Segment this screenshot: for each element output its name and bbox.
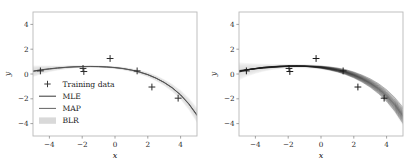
- plus-marker: [286, 68, 293, 75]
- panel-left: −4−2024−4−2024xyTraining dataMLEMAPBLR: [0, 0, 206, 166]
- x-tick-label: 2: [352, 140, 357, 149]
- legend-label: BLR: [63, 116, 80, 125]
- x-tick-label: −2: [283, 140, 294, 149]
- x-axis-ticks: −4−2024: [250, 136, 389, 149]
- x-axis-label: x: [319, 151, 324, 160]
- x-tick-label: 0: [319, 140, 324, 149]
- y-tick-label: 0: [230, 70, 235, 79]
- plus-marker: [313, 55, 320, 62]
- y-tick-label: 2: [24, 45, 29, 54]
- y-tick-label: 4: [24, 20, 29, 29]
- x-tick-label: −2: [77, 140, 88, 149]
- x-tick-label: −4: [44, 140, 55, 149]
- x-tick-label: 0: [113, 140, 118, 149]
- y-tick-label: −4: [224, 119, 235, 128]
- left-panel-plot: −4−2024−4−2024xyTraining dataMLEMAPBLR: [0, 0, 206, 166]
- y-axis-ticks: −4−2024: [224, 20, 239, 128]
- panel-right: −4−2024−4−2024xy: [206, 0, 412, 166]
- x-tick-label: 2: [146, 140, 151, 149]
- plus-marker: [107, 55, 114, 62]
- x-tick-label: −4: [250, 140, 261, 149]
- legend-label: MAP: [63, 104, 81, 113]
- y-axis-label: y: [209, 71, 218, 77]
- axes-frame: [33, 12, 197, 136]
- y-tick-label: 2: [230, 45, 235, 54]
- legend-label: Training data: [63, 80, 116, 89]
- axes-frame: [239, 12, 403, 136]
- legend-label: MLE: [63, 92, 81, 101]
- y-tick-label: −2: [224, 94, 235, 103]
- plus-marker: [149, 84, 156, 91]
- posterior-sample-lines: [239, 66, 403, 124]
- legend-item-map: MAP: [39, 104, 81, 113]
- legend-band-icon: [39, 117, 56, 123]
- legend-item-training-data: Training data: [44, 80, 115, 89]
- y-tick-label: −2: [18, 94, 29, 103]
- uncertainty-band-blr: [33, 65, 197, 123]
- y-tick-label: 4: [230, 20, 235, 29]
- uncertainty-band-blr: [239, 63, 403, 126]
- x-tick-label: 4: [384, 140, 389, 149]
- y-axis-ticks: −4−2024: [18, 20, 33, 128]
- right-panel-plot: −4−2024−4−2024xy: [206, 0, 412, 166]
- figure-two-panel-regression: −4−2024−4−2024xyTraining dataMLEMAPBLR −…: [0, 0, 412, 166]
- legend-item-mle: MLE: [39, 92, 81, 101]
- plus-marker: [355, 84, 362, 91]
- y-tick-label: 0: [24, 70, 29, 79]
- legend-plus-marker-icon: [44, 81, 50, 87]
- x-tick-label: 4: [178, 140, 183, 149]
- plus-marker: [80, 68, 87, 75]
- x-axis-ticks: −4−2024: [44, 136, 183, 149]
- x-axis-label: x: [113, 151, 118, 160]
- y-tick-label: −4: [18, 119, 29, 128]
- legend-item-blr: BLR: [39, 116, 79, 125]
- y-axis-label: y: [3, 71, 12, 77]
- legend: Training dataMLEMAPBLR: [39, 80, 115, 126]
